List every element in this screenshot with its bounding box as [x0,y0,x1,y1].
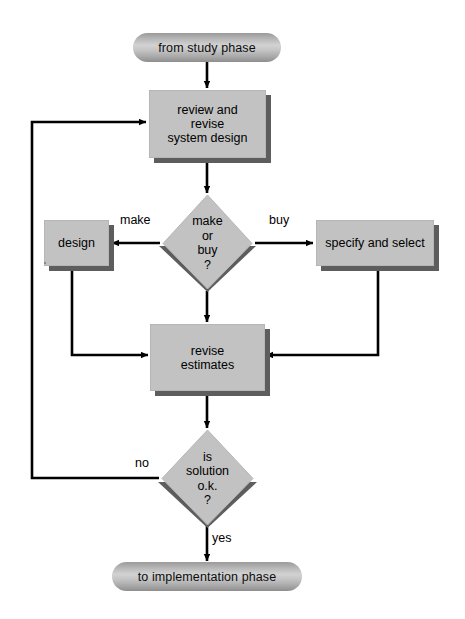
node-start-label: from study phase [158,41,255,55]
node-end-label: to implementation phase [138,570,277,584]
node-revise-estimates: revise estimates [150,324,265,391]
edge-label-yes: yes [212,531,231,545]
node-specify-and-select: specify and select [316,220,434,266]
node-is-solution-ok-decision: is solution o.k. ? [158,429,257,528]
node-make-or-buy-label: make or buy ? [159,194,256,292]
node-end-terminator: to implementation phase [112,562,302,591]
node-review-label: review and revise system design [168,103,248,145]
node-design: design [44,220,109,266]
node-design-label: design [58,236,95,250]
edge-design-to-revise [72,266,148,355]
edge-label-make: make [120,213,151,227]
scan-speck [44,262,46,264]
node-revise-estimates-label: revise estimates [181,344,235,372]
edge-label-no: no [135,456,149,470]
node-review-system-design: review and revise system design [149,90,266,158]
edge-solution-no-feedback [32,122,159,478]
node-start-terminator: from study phase [133,33,281,62]
edge-label-buy: buy [269,213,289,227]
node-specify-label: specify and select [325,236,424,250]
node-is-solution-ok-label: is solution o.k. ? [158,429,257,528]
edge-specify-to-revise [266,266,378,355]
flowchart-canvas: from study phase review and revise syste… [0,0,465,619]
node-make-or-buy-decision: make or buy ? [159,194,256,292]
